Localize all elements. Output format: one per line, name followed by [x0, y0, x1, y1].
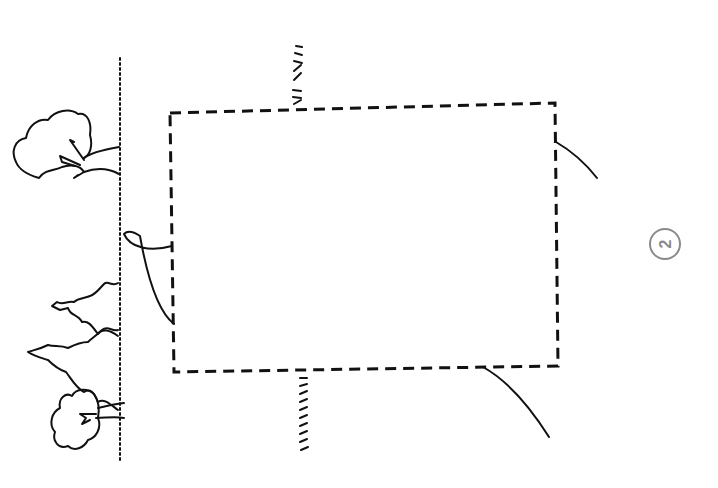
tree-icon [14, 111, 119, 178]
conifer-tree-icon [28, 283, 118, 410]
top-wall-hatch [293, 46, 302, 104]
path-curve [124, 232, 174, 324]
edge-curve-bottom [483, 367, 549, 437]
svg-text:2: 2 [657, 239, 674, 248]
tree-icon [51, 390, 124, 449]
bottom-wall-hatch [300, 378, 308, 450]
site-plan-drawing: 2 [0, 0, 718, 488]
edge-curve-right [556, 142, 597, 178]
page-number-badge: 2 [650, 229, 680, 259]
building-footprint [170, 103, 558, 372]
